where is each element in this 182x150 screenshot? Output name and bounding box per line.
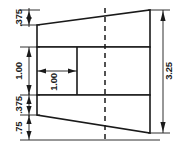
dim-label-web-height: 1.00	[13, 62, 24, 80]
dim-lower-flange: .375	[13, 93, 32, 117]
dim-label-overall-height: 3.25	[163, 61, 174, 80]
arrow-down-overall-height	[160, 122, 165, 132]
dim-overall-height: 3.25	[148, 10, 174, 133]
arrow-up-bottom-taper	[26, 116, 31, 124]
arrow-up-web-height	[26, 48, 31, 57]
lower-tapered-flange	[37, 95, 150, 133]
dim-label-web-width: 1.00	[48, 73, 59, 91]
arrow-down-bottom-taper	[26, 131, 31, 139]
dim-bottom-taper: .75	[13, 115, 32, 140]
technical-drawing: .375 1.00 .375 .75	[0, 0, 182, 150]
drawing-canvas: .375 1.00 .375 .75	[0, 0, 182, 150]
arrow-down-web-height	[26, 85, 31, 94]
arrow-down-upper-flange	[26, 17, 31, 25]
arrow-up-overall-height	[160, 11, 165, 21]
dim-label-bottom-taper: .75	[13, 121, 24, 135]
dim-label-upper-flange: .375	[13, 8, 24, 27]
dim-web-height: 1.00	[13, 47, 32, 95]
upper-tapered-flange	[37, 10, 150, 47]
dim-upper-flange: .375	[13, 8, 32, 27]
arrow-down-lower-flange	[26, 106, 31, 114]
arrow-up-lower-flange	[26, 96, 31, 104]
dim-label-lower-flange: .375	[13, 95, 24, 114]
